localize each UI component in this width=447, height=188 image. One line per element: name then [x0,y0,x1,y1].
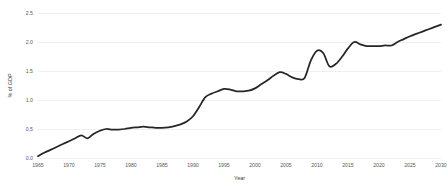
y-tick-label: 2.0 [26,39,33,45]
y-axis-title: % of GDP [7,73,13,97]
x-tick-label: 1965 [32,162,44,168]
y-tick-label: 0.5 [26,126,33,132]
line-chart: 0.00.51.01.52.02.5 196519701975198019851… [0,0,447,188]
x-tick-label: 2020 [373,162,385,168]
y-tick-label: 0.0 [26,155,33,161]
x-tick-label: 2015 [342,162,354,168]
y-tick-label: 2.5 [26,10,33,16]
x-tick-label: 2030 [435,162,447,168]
chart-container: 0.00.51.01.52.02.5 196519701975198019851… [0,0,447,188]
x-tick-label: 1985 [156,162,168,168]
chart-background [0,0,447,188]
x-tick-label: 2005 [280,162,292,168]
x-tick-label: 2010 [311,162,323,168]
x-tick-label: 1970 [63,162,75,168]
y-tick-label: 1.0 [26,97,33,103]
y-tick-label: 1.5 [26,68,33,74]
x-tick-label: 2000 [249,162,261,168]
x-tick-label: 1980 [125,162,137,168]
x-tick-label: 1990 [187,162,199,168]
x-tick-label: 2025 [404,162,416,168]
x-axis-title: Year [234,175,245,181]
x-tick-label: 1995 [218,162,230,168]
x-tick-label: 1975 [94,162,106,168]
